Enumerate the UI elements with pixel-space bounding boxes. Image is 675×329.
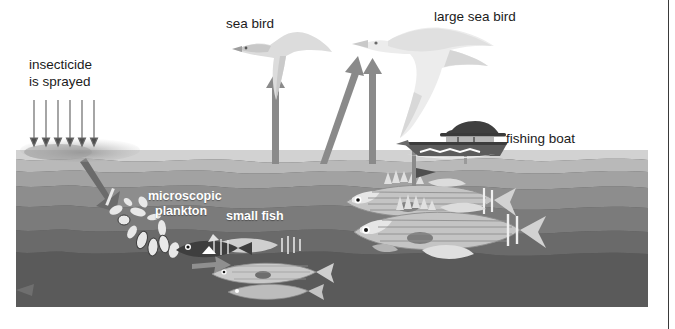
insecticide-spray-arrows (28, 98, 108, 150)
water-layers (16, 150, 648, 307)
food-chain-diagram: insecticide is sprayed sea bird large se… (0, 0, 675, 329)
insecticide-label-line1: insecticide (29, 57, 92, 73)
fishing-boat-label: fishing boat (506, 131, 575, 147)
large-sea-bird-label: large sea bird (434, 9, 516, 25)
small-fish-label: small fish (226, 209, 284, 224)
sea-bird (228, 28, 338, 106)
plankton-label-line2: plankton (155, 204, 207, 219)
page-border-rule (668, 0, 669, 329)
insecticide-label-line2: is sprayed (29, 74, 91, 90)
plankton-label-line1: microscopic (148, 189, 222, 204)
sea-bird-label: sea bird (226, 16, 274, 32)
fishing-boat (396, 116, 516, 160)
ocean-water (16, 150, 648, 307)
water-band-5 (16, 229, 648, 255)
